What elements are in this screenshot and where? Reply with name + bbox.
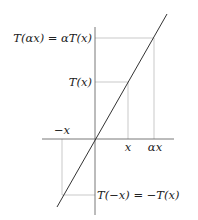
label-t-x: T(x) [69, 75, 92, 89]
label-t-alpha-x: T(αx) = αT(x) [13, 31, 92, 45]
linear-map-diagram: T(αx) = αT(x) T(x) T(−x) = −T(x) −x x αx [0, 0, 198, 220]
label-neg-x: −x [54, 123, 71, 137]
label-x: x [125, 140, 132, 154]
label-alpha-x: αx [148, 140, 163, 154]
label-t-neg-x: T(−x) = −T(x) [97, 188, 179, 202]
